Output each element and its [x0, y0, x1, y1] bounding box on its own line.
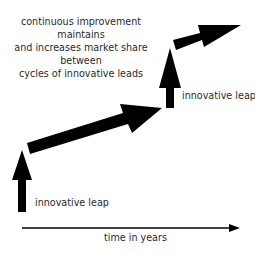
improvement-arrow-2 — [173, 25, 241, 50]
caption-line-1: continuous improvement maintains — [6, 15, 156, 41]
innovative-leap-arrow-1 — [12, 150, 32, 212]
time-axis-label: time in years — [104, 232, 167, 243]
innovative-leap-label-2: innovative leap — [182, 90, 255, 101]
diagram-caption: continuous improvement maintains and inc… — [6, 15, 156, 80]
caption-line-2: and increases market share between — [6, 41, 156, 67]
time-axis-arrowhead — [229, 224, 240, 232]
improvement-arrow-1 — [27, 104, 162, 154]
innovative-leap-label-1: innovative leap — [35, 197, 109, 208]
innovative-leap-arrow-2 — [159, 48, 181, 108]
caption-line-3: cycles of innovative leads — [6, 67, 156, 80]
